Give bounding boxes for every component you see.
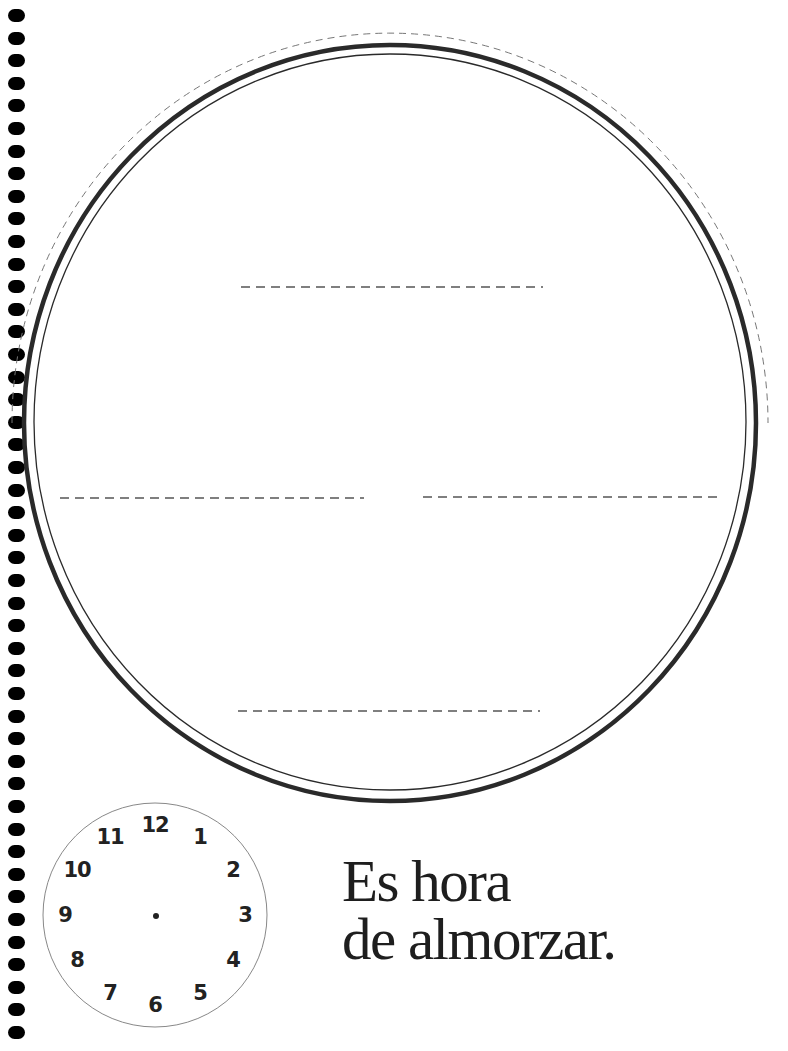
clock-number: 11	[96, 827, 123, 848]
clock-center-dot	[153, 913, 159, 919]
clock-number: 12	[141, 815, 168, 836]
clock-number: 1	[193, 827, 207, 848]
clock-number: 3	[238, 905, 252, 926]
clock-number: 10	[63, 860, 90, 881]
clock-number: 8	[70, 950, 84, 971]
plate-rim-inner	[34, 54, 746, 790]
clock-number: 7	[103, 982, 117, 1003]
caption-line-2: de almorzar.	[342, 910, 616, 968]
clock-number: 9	[58, 905, 72, 926]
plate-cut-line	[12, 33, 768, 423]
clock-number: 5	[193, 982, 207, 1003]
caption: Es hora de almorzar.	[342, 852, 616, 968]
caption-line-1: Es hora	[342, 852, 616, 910]
plate-rim-outer	[24, 45, 756, 801]
clock-number: 4	[226, 950, 240, 971]
clock-number: 6	[148, 995, 162, 1016]
clock-number: 2	[226, 860, 240, 881]
